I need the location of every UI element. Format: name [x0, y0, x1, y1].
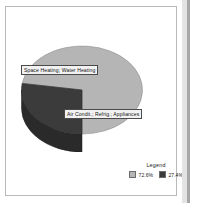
legend-value-1: 27.4%: [169, 172, 183, 178]
legend-entry-1[interactable]: 27.4%: [159, 171, 183, 178]
legend-value-0: 72.6%: [139, 172, 153, 178]
chart-frame: Space Heating; Water Heating Air Condit.…: [5, 6, 177, 196]
legend-swatch-icon-1: [159, 171, 166, 178]
pie-label-aircond-refrig-appliances: Air Condit.; Refrig.; Appliances: [64, 109, 142, 119]
page-gutter-edge: [187, 0, 190, 203]
pie-chart: [18, 34, 146, 152]
pie-label-space-water-heating: Space Heating; Water Heating: [21, 65, 98, 75]
legend-entry-0[interactable]: 72.6%: [129, 171, 153, 178]
legend-swatch-icon-0: [129, 171, 136, 178]
scanned-page: Space Heating; Water Heating Air Condit.…: [0, 0, 198, 203]
pie-chart-svg: [18, 34, 146, 152]
